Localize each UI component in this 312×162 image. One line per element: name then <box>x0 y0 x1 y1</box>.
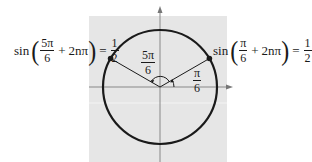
period-term: 2nπ <box>262 43 282 59</box>
plus-sign: + <box>58 43 65 59</box>
x-axis-arrow-icon <box>226 85 233 90</box>
close-paren: ) <box>281 37 289 65</box>
numerator: 1 <box>111 37 119 51</box>
point-pi-over-6 <box>207 56 213 62</box>
equation-right: sin ( π6 + 2nπ ) = 12 <box>213 37 312 64</box>
sin-function: sin <box>14 43 29 59</box>
label-denominator: 6 <box>194 81 200 94</box>
y-axis-arrow-icon <box>158 6 163 13</box>
plus-sign: + <box>251 43 258 59</box>
angle-label-5pi-over-6: 5π6 <box>140 48 156 76</box>
angle-label-pi-over-6: π6 <box>192 66 202 94</box>
close-paren: ) <box>88 37 96 65</box>
open-paren: ( <box>31 37 39 65</box>
value-fraction: 12 <box>304 37 312 64</box>
label-numerator: 5π <box>141 49 155 63</box>
value-fraction: 12 <box>111 37 119 64</box>
label-denominator: 6 <box>145 63 151 76</box>
angle-fraction: π6 <box>239 37 247 64</box>
unit-circle-figure <box>0 0 312 162</box>
numerator: 5π <box>40 37 54 51</box>
angle-fraction: 5π6 <box>40 37 54 64</box>
equation-left: sin ( 5π6 + 2nπ ) = 12 <box>14 37 120 64</box>
numerator: 1 <box>304 37 312 51</box>
sin-function: sin <box>213 43 228 59</box>
equals-sign: = <box>292 43 299 59</box>
numerator: π <box>239 37 247 51</box>
open-paren: ( <box>230 37 238 65</box>
denominator: 6 <box>240 51 246 64</box>
denominator: 2 <box>305 51 311 64</box>
denominator: 6 <box>44 51 50 64</box>
denominator: 2 <box>112 51 118 64</box>
label-numerator: π <box>193 67 201 81</box>
equals-sign: = <box>99 43 106 59</box>
period-term: 2nπ <box>69 43 89 59</box>
